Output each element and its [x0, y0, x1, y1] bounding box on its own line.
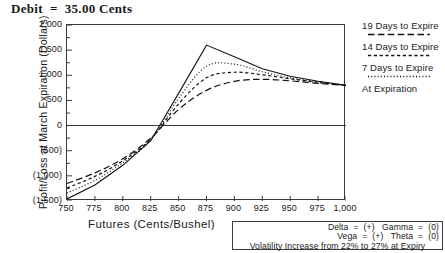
x-axis-title: Futures (Cents/Bushel) [88, 218, 215, 230]
y-tick-label: 2,000 [0, 19, 62, 29]
legend-label: 14 Days to Expire [362, 41, 445, 53]
y-tick-label: (1,000) [0, 170, 62, 180]
plot-curves [67, 25, 346, 201]
legend-label: At Expiration [362, 83, 445, 95]
legend-label: 7 Days to Expire [362, 62, 445, 74]
x-tick-label: 1,000 [333, 203, 356, 213]
options-payoff-chart: Debit = 35.00 Cents Profit/Loss at March… [0, 0, 445, 253]
legend-line-sample [368, 74, 445, 81]
legend: 19 Days to Expire14 Days to Expire7 Days… [362, 20, 445, 97]
legend-entry: 14 Days to Expire [362, 41, 445, 60]
greeks-info-box: Delta = (+) Gamma = (0) Vega = (+) Theta… [232, 221, 443, 250]
series-line [67, 72, 346, 188]
legend-line-sample [368, 53, 445, 60]
info-line-volatility: Volatility Increase from 22% to 27% at E… [236, 242, 439, 251]
x-tick-label: 775 [86, 203, 101, 213]
legend-entry: 19 Days to Expire [362, 20, 445, 39]
x-tick-label: 825 [142, 203, 157, 213]
y-tick-label: 0 [0, 120, 62, 130]
plot-area [66, 24, 345, 200]
x-axis-tick-labels: 7507758008258508759009259509751,000 [0, 203, 445, 217]
x-tick-label: 975 [309, 203, 324, 213]
series-line [67, 45, 346, 199]
x-tick-label: 800 [114, 203, 129, 213]
x-tick-label: 875 [198, 203, 213, 213]
x-tick-label: 950 [282, 203, 297, 213]
x-tick-label: 925 [254, 203, 269, 213]
y-tick-label: 1,000 [0, 69, 62, 79]
legend-label: 19 Days to Expire [362, 20, 445, 32]
y-tick-label: (500) [0, 145, 62, 155]
legend-entry: 7 Days to Expire [362, 62, 445, 81]
y-tick-label: 500 [0, 94, 62, 104]
series-line [67, 79, 346, 183]
x-tick-label: 850 [170, 203, 185, 213]
legend-entry: At Expiration [362, 83, 445, 95]
legend-line-sample [368, 32, 445, 39]
x-tick-label: 750 [58, 203, 73, 213]
y-tick-label: 1,500 [0, 44, 62, 54]
x-tick-label: 900 [226, 203, 241, 213]
